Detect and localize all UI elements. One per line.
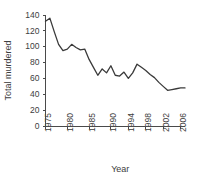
chart-figure: 020406080100120140 197519801985199019941… — [0, 0, 198, 182]
y-tick-label: 60 — [30, 73, 40, 83]
y-tick-label: 80 — [30, 57, 40, 67]
x-tick-label: 1975 — [43, 113, 53, 132]
y-tick-label: 100 — [25, 41, 39, 51]
x-tick-label: 1998 — [143, 113, 153, 132]
y-tick-label: 0 — [35, 121, 40, 131]
y-tick-label: 40 — [30, 89, 40, 99]
x-tick-label: 2006 — [178, 113, 188, 132]
y-tick-label: 20 — [30, 105, 40, 115]
x-axis-tick-labels: 19751980198519901994199820022006 — [43, 113, 188, 132]
y-axis-tick-labels: 020406080100120140 — [25, 10, 39, 131]
x-tick-label: 1994 — [126, 113, 136, 132]
x-tick-label: 1980 — [65, 113, 75, 132]
y-tick-label: 120 — [25, 26, 39, 36]
y-axis-title: Total murdered — [3, 40, 13, 100]
x-tick-label: 1990 — [108, 113, 118, 132]
x-tick-label: 1985 — [87, 113, 97, 132]
y-tick-label: 140 — [25, 10, 39, 20]
line-chart: 020406080100120140 197519801985199019941… — [0, 0, 198, 182]
data-series-line — [46, 18, 186, 90]
x-axis-title: Year — [111, 164, 129, 174]
x-tick-label: 2002 — [161, 113, 171, 132]
